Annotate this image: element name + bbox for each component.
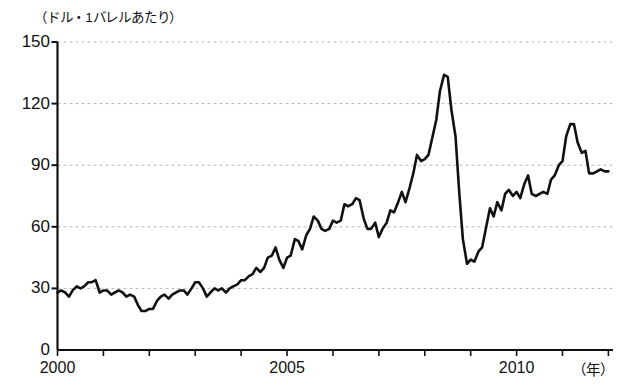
- x-axis-labels: 200020052010: [0, 0, 621, 392]
- x-tick-label: 2005: [269, 359, 305, 377]
- x-axis-unit-label: （年）: [572, 358, 614, 379]
- x-tick-label: 2000: [40, 359, 76, 377]
- oil-price-chart: （ドル・1バレルあたり） 0306090120150 200020052010 …: [0, 0, 621, 392]
- x-tick-label: 2010: [499, 359, 535, 377]
